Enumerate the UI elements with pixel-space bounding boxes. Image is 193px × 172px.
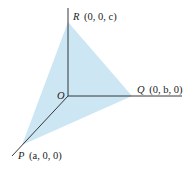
point-r-label: R (0, 0, c) — [72, 11, 117, 23]
point-q-label: Q (0, b, 0) — [137, 84, 183, 96]
origin-label: O — [57, 90, 65, 101]
point-coords: (0, 0, c) — [84, 11, 117, 23]
point-coords: (0, b, 0) — [149, 84, 183, 96]
point-p-label: P (a, 0, 0) — [17, 150, 62, 162]
diagram-canvas: O R (0, 0, c) Q (0, b, 0) P (a, 0, 0) — [0, 0, 193, 172]
plane-triangle — [22, 22, 132, 145]
point-coords: (a, 0, 0) — [29, 150, 62, 162]
